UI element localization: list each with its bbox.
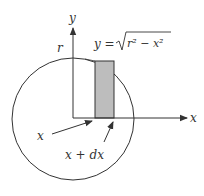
- shaded-strip: [95, 61, 114, 118]
- x-strip-left-label: x: [37, 129, 44, 143]
- equation-radicand: r² − x²: [127, 37, 164, 50]
- radius-label: r: [57, 41, 64, 55]
- equation-lhs: y =: [93, 37, 115, 51]
- x-axis-label: x: [190, 111, 197, 125]
- circle-strip-diagram: y x r y = r² − x² x x + dx: [0, 0, 204, 196]
- x-left-pointer-arrow: [52, 121, 92, 134]
- y-axis-label: y: [68, 11, 76, 25]
- equation-label: y = r² − x²: [93, 32, 171, 51]
- x-plus-dx-pointer-arrow: [104, 122, 113, 142]
- x-plus-dx-label: x + dx: [65, 148, 104, 162]
